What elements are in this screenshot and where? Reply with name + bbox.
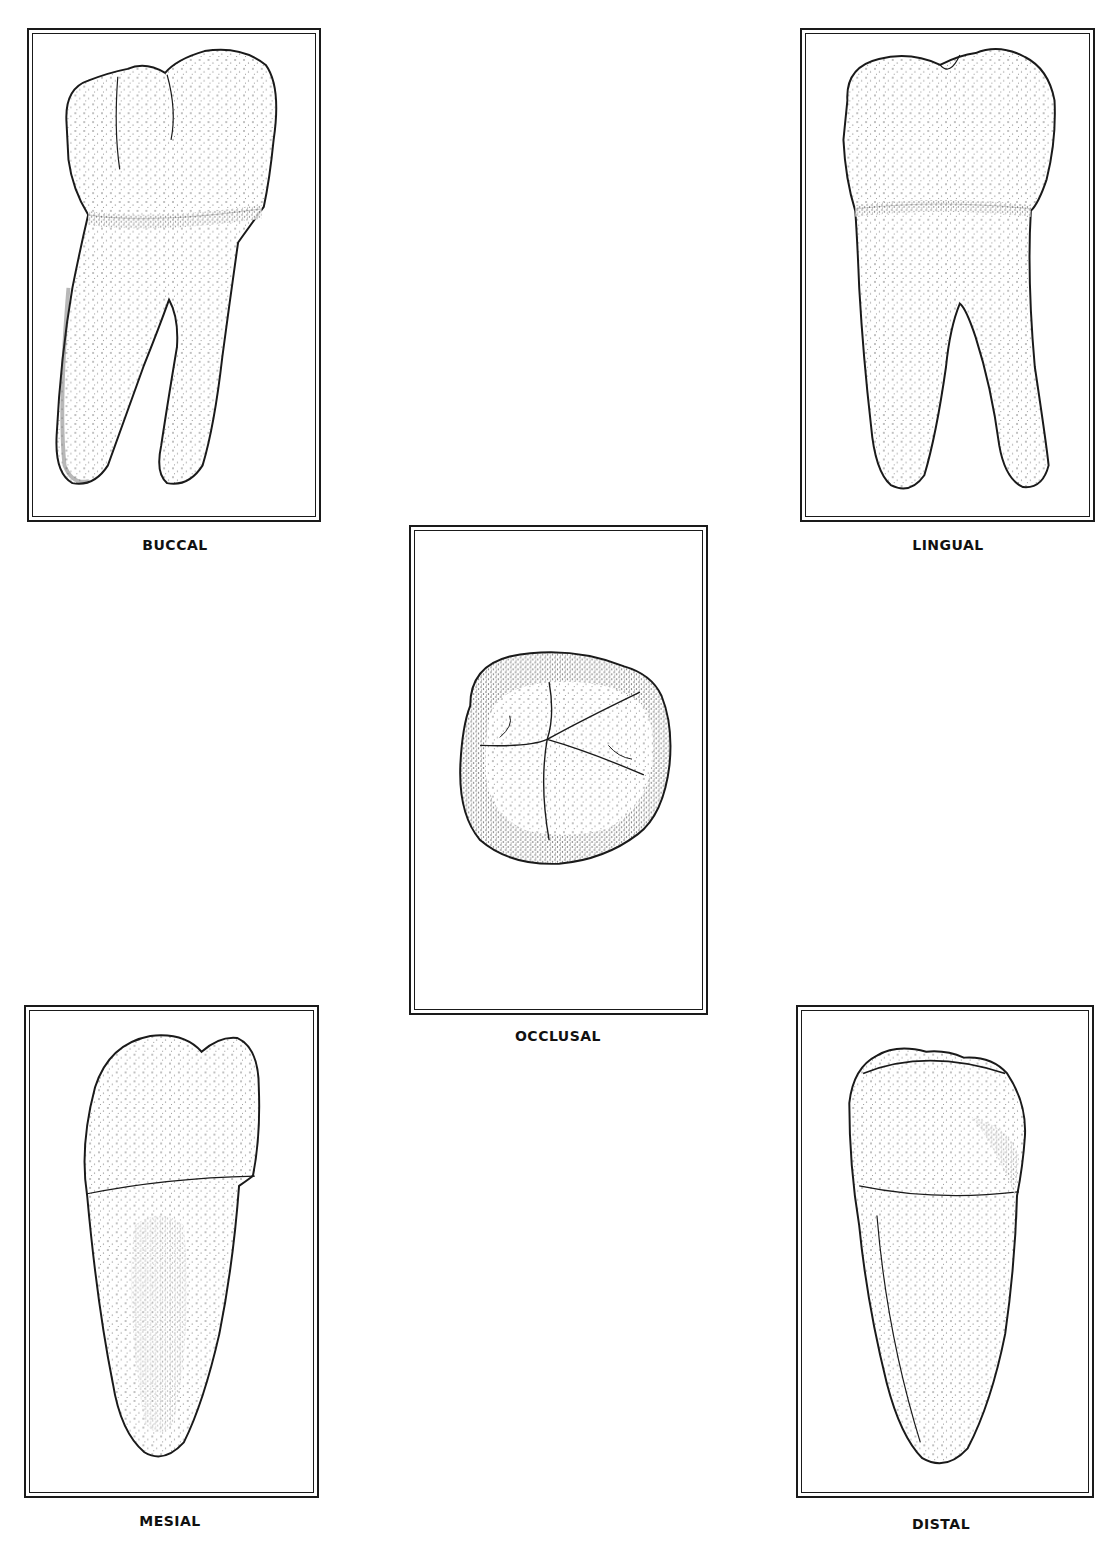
lingual-tooth-illustration (802, 30, 1093, 520)
mesial-view-frame (24, 1005, 319, 1498)
distal-tooth-illustration (798, 1007, 1092, 1496)
occlusal-label: OCCLUSAL (458, 1028, 658, 1044)
mesial-tooth-illustration (26, 1007, 317, 1496)
distal-view-frame (796, 1005, 1094, 1498)
lingual-label: LINGUAL (848, 537, 1048, 553)
buccal-tooth-illustration (29, 30, 319, 520)
occlusal-tooth-illustration (411, 527, 706, 1013)
occlusal-view-frame (409, 525, 708, 1015)
mesial-label: MESIAL (70, 1513, 270, 1529)
lingual-view-frame (800, 28, 1095, 522)
distal-label: DISTAL (841, 1516, 1041, 1532)
buccal-label: BUCCAL (75, 537, 275, 553)
buccal-view-frame (27, 28, 321, 522)
